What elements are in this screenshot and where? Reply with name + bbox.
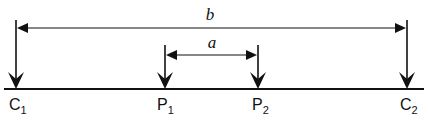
load-arrow-p2 [250,45,266,89]
dimension-b: b [17,5,406,33]
dimension-a-label: a [208,33,217,52]
dimension-diagram: b a C1 P1 P2 C2 [0,0,429,125]
load-arrow-c2 [399,20,415,89]
label-p1: P1 [157,96,174,116]
load-arrow-c1 [8,20,24,89]
dimension-a: a [166,33,257,60]
label-p2: P2 [252,96,269,116]
label-c1: C1 [9,96,27,116]
label-c2: C2 [400,96,418,116]
dimension-b-label: b [206,5,215,24]
load-arrow-p1 [157,45,173,89]
